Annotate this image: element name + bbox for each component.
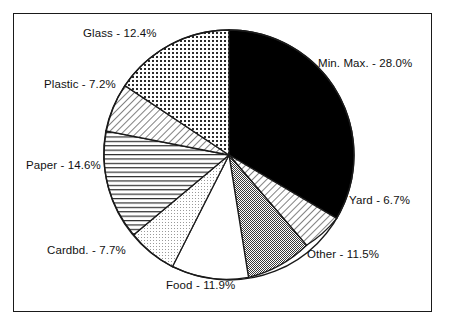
- pie-label-paper: Paper - 14.6%: [26, 160, 101, 172]
- pie-label-cardbd: Cardbd. - 7.7%: [47, 245, 126, 257]
- pie-chart-screenshot: Glass - 12.4% Min. Max. - 28.0% Plastic …: [0, 0, 450, 330]
- pie-label-food: Food - 11.9%: [166, 280, 235, 292]
- pie-label-yard: Yard - 6.7%: [349, 195, 410, 207]
- pie-label-plastic: Plastic - 7.2%: [44, 79, 116, 91]
- pie-label-glass: Glass - 12.4%: [83, 28, 157, 40]
- pie-label-other: Other - 11.5%: [307, 249, 379, 261]
- pie-slices: [104, 30, 354, 280]
- pie-label-min-max: Min. Max. - 28.0%: [318, 58, 412, 70]
